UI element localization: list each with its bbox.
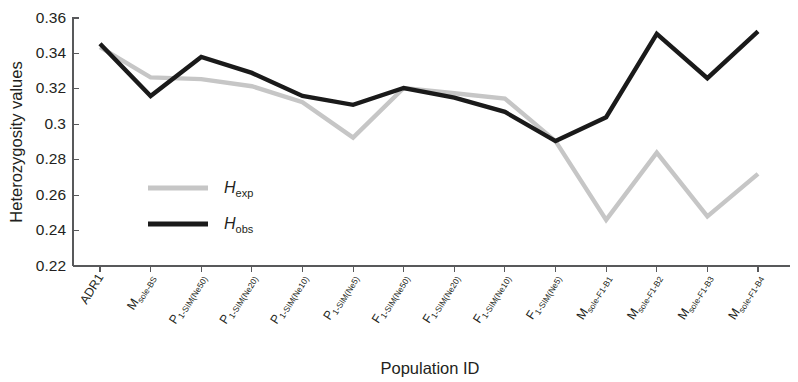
x-tick-label: F1-SIM(Ne10) [470, 271, 513, 327]
x-tick-label-text: F1-SIM(Ne10) [470, 271, 513, 327]
series-line-Hobs [100, 31, 758, 141]
x-tick-label-text: P1-SIM(Ne50) [166, 271, 210, 327]
x-tick-label: Msole-F1-B4 [725, 271, 766, 323]
x-tick-label: P1-SIM(Ne50) [166, 271, 210, 327]
y-tick-label: 0.36 [36, 9, 66, 26]
x-tick-label-text: P1-SIM(Ne5) [320, 271, 361, 323]
chart-legend: HexpHobs [148, 179, 254, 235]
y-tick-label: 0.34 [36, 44, 67, 61]
y-axis-title: Heterozygosity values [7, 61, 25, 222]
x-tick-label-text: P1-SIM(Ne10) [267, 271, 311, 327]
x-tick-label-text: Msole-F1-B3 [675, 271, 716, 323]
x-tick-label-text: Msole-F1-B4 [725, 271, 766, 323]
y-tick-label: 0.26 [36, 186, 66, 203]
x-axis-ticks [100, 266, 758, 272]
x-tick-label: Msole-F1-B2 [624, 271, 665, 323]
y-tick-label: 0.28 [36, 150, 66, 167]
heterozygosity-line-chart: Heterozygosity values Population ID 0.22… [0, 0, 798, 382]
x-tick-label: Msole-F1-B1 [574, 271, 615, 323]
data-series-group [100, 31, 758, 220]
x-tick-label: F1-SIM(Ne20) [420, 271, 463, 327]
x-tick-label-text: Msole-BS [124, 271, 159, 314]
x-tick-label-text: ADR1 [77, 271, 106, 307]
x-tick-label-text: F1-SIM(Ne50) [369, 271, 412, 327]
x-tick-label-text: Msole-F1-B1 [574, 271, 615, 323]
x-tick-label-text: F1-SIM(Ne20) [420, 271, 463, 327]
x-tick-label: F1-SIM(Ne50) [369, 271, 412, 327]
series-line-Hexp [100, 47, 758, 220]
x-tick-label-text: F1-SIM(Ne5) [523, 271, 564, 323]
x-tick-label: F1-SIM(Ne5) [523, 271, 564, 323]
y-tick-label: 0.22 [36, 257, 66, 274]
legend-label-Hexp: Hexp [224, 179, 253, 199]
legend-label-Hobs: Hobs [224, 215, 254, 235]
x-tick-label: P1-SIM(Ne5) [320, 271, 361, 323]
y-tick-label: 0.24 [36, 221, 67, 238]
x-axis-title: Population ID [380, 359, 479, 377]
chart-figure: Heterozygosity values Population ID 0.22… [0, 0, 798, 382]
x-tick-label: Msole-BS [124, 271, 159, 314]
x-tick-label: P1-SIM(Ne10) [267, 271, 311, 327]
x-tick-label: Msole-F1-B3 [675, 271, 716, 323]
x-tick-label: P1-SIM(Ne20) [217, 271, 261, 327]
x-tick-label: ADR1 [77, 271, 106, 307]
x-tick-label-text: Msole-F1-B2 [624, 271, 665, 323]
x-axis-labels: ADR1Msole-BSP1-SIM(Ne50)P1-SIM(Ne20)P1-S… [77, 271, 766, 328]
y-tick-label: 0.32 [36, 79, 66, 96]
y-tick-label: 0.3 [44, 115, 66, 132]
x-tick-label-text: P1-SIM(Ne20) [217, 271, 261, 327]
